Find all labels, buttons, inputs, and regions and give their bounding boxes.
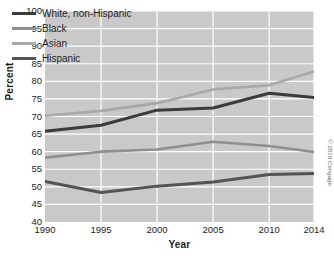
y-tick-label: 75 bbox=[18, 94, 42, 103]
chart-figure: Percent 100959085807570656055504540 1990… bbox=[0, 0, 334, 266]
legend-label: Black bbox=[42, 23, 66, 34]
legend-label: White, non-Hispanic bbox=[42, 8, 131, 19]
legend-label: Hispanic bbox=[42, 53, 80, 64]
y-tick-label: 80 bbox=[18, 76, 42, 85]
y-tick-label: 60 bbox=[18, 147, 42, 156]
legend-color-swatch bbox=[12, 57, 36, 60]
y-tick-label: 50 bbox=[18, 182, 42, 191]
legend-color-swatch bbox=[12, 27, 36, 30]
legend-item: White, non-Hispanic bbox=[12, 6, 192, 21]
legend-item: Black bbox=[12, 21, 192, 36]
y-tick-label: 65 bbox=[18, 129, 42, 138]
legend-color-swatch bbox=[12, 12, 36, 15]
legend-item: Hispanic bbox=[12, 51, 192, 66]
chart-legend: White, non-HispanicBlackAsianHispanic bbox=[12, 6, 192, 66]
legend-item: Asian bbox=[12, 36, 192, 51]
y-tick-label: 55 bbox=[18, 164, 42, 173]
x-axis-tick-labels: 199019952000200520102014 bbox=[45, 224, 314, 238]
legend-label: Asian bbox=[42, 38, 67, 49]
legend-color-swatch bbox=[12, 42, 36, 45]
x-tick-label: 2000 bbox=[147, 224, 168, 235]
x-tick-label: 1990 bbox=[34, 224, 55, 235]
x-tick-label: 2014 bbox=[303, 224, 324, 235]
copyright-credit: © 2019 Cengage bbox=[327, 139, 333, 186]
x-tick-label: 1995 bbox=[90, 224, 111, 235]
y-tick-label: 45 bbox=[18, 199, 42, 208]
y-tick-label: 70 bbox=[18, 112, 42, 121]
x-axis-title: Year bbox=[45, 239, 314, 250]
x-tick-label: 2010 bbox=[259, 224, 280, 235]
x-tick-label: 2005 bbox=[203, 224, 224, 235]
y-axis-title: Percent bbox=[4, 87, 15, 101]
